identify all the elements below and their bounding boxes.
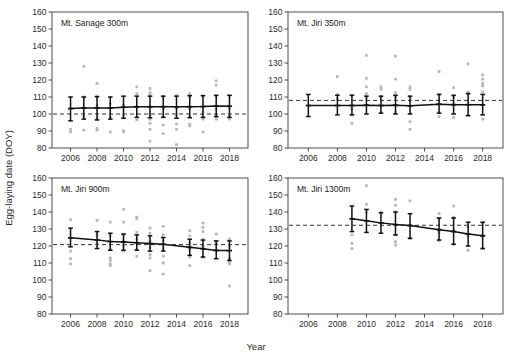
- figure-container: 8090100110120130140150160200620082010201…: [0, 0, 512, 355]
- x-tick-label: 2012: [141, 153, 160, 163]
- raw-data-point: [438, 115, 441, 118]
- x-tick-label: 2016: [194, 153, 213, 163]
- raw-data-point: [109, 130, 112, 133]
- x-tick-label: 2016: [194, 319, 213, 329]
- raw-data-point: [122, 130, 125, 133]
- raw-data-point: [351, 242, 354, 245]
- y-tick-label: 80: [273, 309, 283, 319]
- panel-title: Mt. Jiri 350m: [297, 18, 346, 28]
- raw-data-point: [188, 264, 191, 267]
- x-tick-label: 2014: [167, 153, 186, 163]
- raw-data-point: [162, 124, 165, 127]
- egg-laying-date-figure: 8090100110120130140150160200620082010201…: [0, 0, 512, 355]
- raw-data-point: [380, 85, 383, 88]
- raw-data-point: [365, 203, 368, 206]
- y-tick-label: 90: [273, 292, 283, 302]
- raw-data-point: [149, 253, 152, 256]
- y-tick-label: 140: [32, 207, 46, 217]
- raw-data-point: [215, 84, 218, 87]
- raw-data-point: [188, 229, 191, 232]
- raw-data-point: [481, 91, 484, 94]
- y-tick-label: 160: [268, 173, 282, 183]
- x-tick-label: 2014: [167, 319, 186, 329]
- y-tick-label: 140: [268, 207, 282, 217]
- panel-mt-jiri-1300m: 8090100110120130140150160200620082010201…: [268, 173, 503, 329]
- raw-data-point: [149, 128, 152, 131]
- raw-data-point: [365, 85, 368, 88]
- raw-data-point: [122, 208, 125, 211]
- x-tick-label: 2018: [220, 153, 239, 163]
- x-tick-label: 2006: [299, 153, 318, 163]
- y-tick-label: 120: [32, 241, 46, 251]
- raw-data-point: [135, 255, 138, 258]
- y-tick-label: 140: [268, 41, 282, 51]
- raw-data-point: [162, 225, 165, 228]
- raw-data-point: [452, 205, 455, 208]
- raw-data-point: [175, 123, 178, 126]
- raw-data-point: [149, 269, 152, 272]
- raw-data-point: [394, 240, 397, 243]
- y-tick-label: 130: [32, 224, 46, 234]
- raw-data-point: [135, 92, 138, 95]
- raw-data-point: [149, 227, 152, 230]
- raw-data-point: [149, 140, 152, 143]
- raw-data-point: [365, 54, 368, 57]
- raw-data-point: [202, 130, 205, 133]
- y-tick-label: 80: [37, 309, 47, 319]
- y-tick-label: 160: [32, 173, 46, 183]
- y-tick-label: 100: [32, 275, 46, 285]
- y-tick-label: 160: [32, 7, 46, 17]
- raw-data-point: [188, 92, 191, 95]
- raw-data-point: [69, 130, 72, 133]
- panel-title: Mt. Jiri 1300m: [297, 184, 350, 194]
- raw-data-point: [365, 92, 368, 95]
- raw-data-point: [109, 264, 112, 267]
- y-tick-label: 150: [268, 24, 282, 34]
- raw-data-point: [336, 75, 339, 78]
- x-tick-label: 2006: [61, 153, 80, 163]
- x-tick-label: 2010: [357, 153, 376, 163]
- raw-data-point: [467, 62, 470, 65]
- raw-data-point: [175, 143, 178, 146]
- y-tick-label: 100: [268, 275, 282, 285]
- raw-data-point: [365, 184, 368, 187]
- x-tick-label: 2012: [386, 319, 405, 329]
- y-tick-label: 100: [268, 109, 282, 119]
- raw-data-point: [215, 118, 218, 121]
- x-tick-label: 2018: [473, 319, 492, 329]
- raw-data-point: [409, 200, 412, 203]
- raw-data-point: [380, 88, 383, 91]
- raw-data-point: [149, 87, 152, 90]
- raw-data-point: [481, 85, 484, 88]
- raw-data-point: [149, 122, 152, 125]
- y-tick-label: 90: [37, 126, 47, 136]
- raw-data-point: [109, 257, 112, 260]
- y-tick-label: 130: [32, 58, 46, 68]
- panel-mt-jiri-900m: 8090100110120130140150160200620082010201…: [32, 173, 248, 329]
- raw-data-point: [162, 234, 165, 237]
- raw-data-point: [69, 218, 72, 221]
- y-tick-label: 80: [273, 143, 283, 153]
- raw-data-point: [365, 77, 368, 80]
- x-tick-label: 2016: [444, 153, 463, 163]
- raw-data-point: [452, 86, 455, 89]
- x-tick-label: 2008: [88, 319, 107, 329]
- raw-data-point: [135, 119, 138, 122]
- y-tick-label: 110: [269, 92, 283, 102]
- y-tick-label: 120: [268, 75, 282, 85]
- y-tick-label: 90: [37, 292, 47, 302]
- raw-data-point: [351, 122, 354, 125]
- raw-data-point: [394, 198, 397, 201]
- y-tick-label: 130: [268, 58, 282, 68]
- raw-data-point: [438, 212, 441, 215]
- raw-data-point: [162, 132, 165, 135]
- x-tick-label: 2010: [357, 319, 376, 329]
- x-tick-label: 2014: [415, 319, 434, 329]
- y-tick-label: 110: [33, 92, 47, 102]
- raw-data-point: [149, 232, 152, 235]
- raw-data-point: [202, 230, 205, 233]
- raw-data-point: [135, 231, 138, 234]
- raw-data-point: [409, 120, 412, 123]
- raw-data-point: [96, 219, 99, 222]
- raw-data-point: [135, 217, 138, 220]
